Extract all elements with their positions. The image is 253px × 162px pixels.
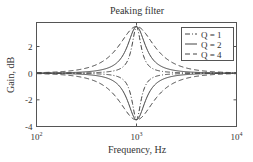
chart-title: Peaking filter	[110, 5, 165, 16]
y-tick-label: 0	[28, 69, 33, 79]
series-line	[37, 73, 237, 120]
peaking-filter-chart: Peaking filter 20-2-4 102103104 Frequenc…	[0, 0, 253, 162]
legend-label: Q = 2	[201, 40, 222, 50]
y-tick-label: -2	[25, 95, 33, 105]
legend: Q = 1Q = 2Q = 4	[182, 28, 234, 61]
legend-label: Q = 1	[201, 30, 222, 40]
y-tick-label: 2	[28, 42, 33, 52]
series-line	[37, 73, 237, 120]
x-tick-label: 102	[31, 131, 43, 142]
legend-label: Q = 4	[201, 50, 222, 60]
y-tick-label: -4	[25, 122, 33, 132]
x-tick-label: 104	[231, 131, 243, 142]
y-axis-label: Gain, dB	[5, 57, 16, 93]
series-line	[37, 74, 237, 120]
x-tick-label: 103	[131, 131, 143, 142]
x-axis-label: Frequency, Hz	[108, 144, 167, 155]
